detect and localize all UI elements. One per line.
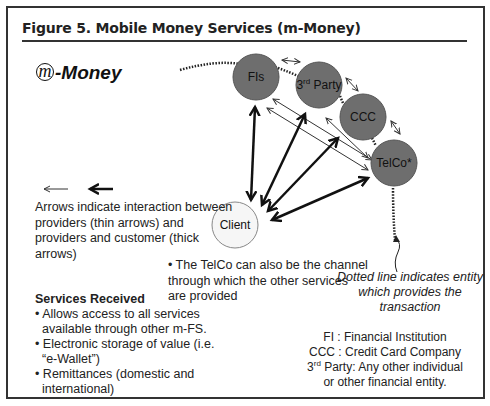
node-telco-label: TelCo* <box>371 156 417 170</box>
node-ccc-label: CCC <box>340 110 386 124</box>
abbrev-third-party-cont: or other financial entity. <box>300 375 470 390</box>
services-heading: Services Received <box>35 292 215 307</box>
service-item: • Remittances (domestic and internationa… <box>35 367 215 397</box>
abbrev-fi: FI : Financial Institution <box>300 330 470 345</box>
services-received: Services Received • Allows access to all… <box>35 292 215 397</box>
provider-dotted-line <box>180 63 240 70</box>
abbrev-third-party: 3rd Party: Any other individual <box>300 360 470 375</box>
node-fis-label: FIs <box>233 70 279 84</box>
arrow-legend-text: Arrows indicate interaction between prov… <box>35 200 235 262</box>
node-third-party-label: 3rd Party <box>293 78 345 92</box>
service-item: • Electronic storage of value (i.e. “e-W… <box>35 337 215 367</box>
dotted-line-note: Dotted line indicates entity which provi… <box>335 270 485 315</box>
abbrev-ccc: CCC : Credit Card Company <box>300 345 470 360</box>
pointer-arrow <box>395 238 399 272</box>
service-item: • Allows access to all services availabl… <box>35 307 215 337</box>
abbreviation-key: FI : Financial Institution CCC : Credit … <box>300 330 470 390</box>
